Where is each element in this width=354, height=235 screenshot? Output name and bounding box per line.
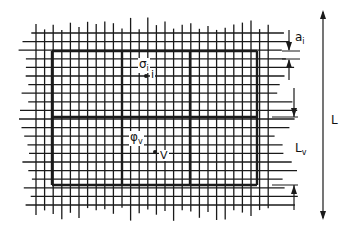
label-sigma-i: σi: [138, 58, 150, 73]
label-a-i: ai: [294, 31, 306, 46]
label-point-v: V: [159, 150, 169, 161]
label-point-i: i: [150, 69, 155, 80]
a-i-arrowhead-bottom: [286, 59, 292, 68]
L-arrowhead-bottom: [320, 211, 326, 220]
a-i-arrowhead-top: [286, 42, 292, 51]
site-v-dot: [153, 150, 157, 154]
label-phi-v: φv: [129, 131, 144, 146]
site-i-dot: [144, 74, 148, 78]
L-arrowhead-top: [320, 10, 326, 19]
label-L-v: Lv: [294, 142, 307, 157]
lv-arrowhead-top: [291, 108, 297, 117]
label-L: L: [330, 114, 339, 126]
lv-arrowhead-bottom: [291, 185, 297, 194]
